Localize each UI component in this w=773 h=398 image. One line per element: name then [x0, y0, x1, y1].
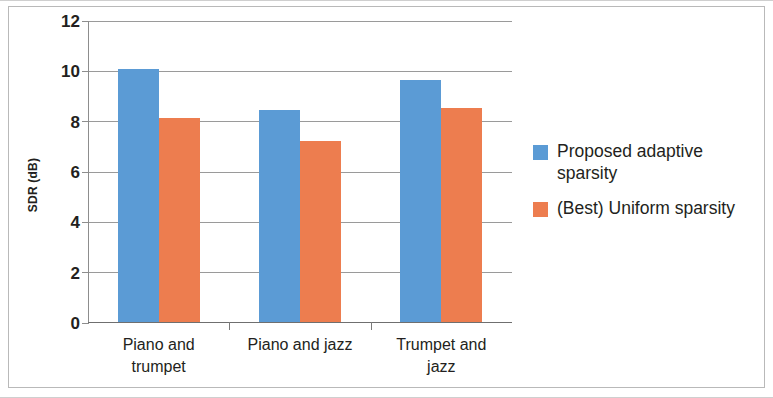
bar [159, 118, 200, 322]
y-axis-tick-label: 6 [71, 164, 80, 181]
bar [441, 108, 482, 322]
bar-chart-figure: SDR (dB) 121086420 Piano andtrumpetPiano… [0, 0, 773, 398]
x-axis-category-label-line: Piano and jazz [229, 334, 370, 356]
y-axis-tick-label: 10 [61, 63, 80, 80]
legend-item: (Best) Uniform sparsity [533, 198, 771, 220]
x-axis-line [88, 322, 512, 323]
bar [400, 80, 441, 322]
y-axis-tick-label: 4 [71, 214, 80, 231]
y-axis-tick-label: 12 [61, 13, 80, 30]
y-axis-tick-label: 8 [71, 113, 80, 130]
legend-color-swatch [533, 145, 548, 160]
y-axis-tick-mark [82, 172, 89, 173]
x-axis-tick-mark [229, 322, 230, 330]
y-axis-tick-label: 0 [71, 315, 80, 332]
bar [300, 141, 341, 322]
x-axis-category-label-line: Trumpet and [371, 334, 512, 356]
y-axis-tick-label: 2 [71, 264, 80, 281]
y-axis-title-label: SDR (dB) [26, 158, 40, 212]
legend-item: Proposed adaptive sparsity [533, 141, 771, 185]
x-axis-category-label-line: jazz [371, 356, 512, 378]
y-axis-tick-mark [82, 222, 89, 223]
plot-area: 121086420 [88, 21, 512, 323]
y-axis-tick-mark [82, 272, 89, 273]
y-axis-tick-mark [82, 71, 89, 72]
y-axis-tick-mark [82, 323, 89, 324]
chart-legend: Proposed adaptive sparsity(Best) Uniform… [533, 141, 771, 233]
x-axis-category-label: Piano andtrumpet [88, 334, 229, 377]
x-axis-category-label-line: trumpet [88, 356, 229, 378]
x-axis-tick-mark [371, 322, 372, 330]
x-axis-category-label: Trumpet andjazz [371, 334, 512, 377]
gridline [88, 21, 512, 22]
y-axis-tick-mark [82, 121, 89, 122]
x-axis-category-labels: Piano andtrumpetPiano and jazzTrumpet an… [88, 334, 512, 390]
x-axis-category-label: Piano and jazz [229, 334, 370, 356]
y-axis-tick-mark [82, 21, 89, 22]
bar [259, 110, 300, 322]
y-axis-title: SDR (dB) [24, 130, 42, 240]
x-axis-category-label-line: Piano and [88, 334, 229, 356]
bar [118, 69, 159, 322]
legend-color-swatch [533, 202, 548, 217]
legend-label: Proposed adaptive sparsity [557, 141, 757, 185]
legend-label: (Best) Uniform sparsity [557, 198, 735, 220]
